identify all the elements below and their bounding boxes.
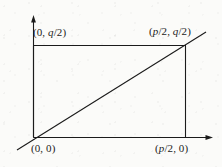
y-axis-arrowhead-icon	[31, 15, 36, 23]
label-top-left: (0, q/2)	[33, 27, 66, 38]
label-bottom-right: (p/2, 0)	[155, 143, 188, 154]
label-origin: (0, 0)	[31, 143, 55, 154]
x-axis-arrowhead-icon	[206, 135, 214, 140]
figure-canvas: (0, q/2) (p/2, q/2) (0, 0) (p/2, 0)	[0, 0, 222, 167]
diagonal-line	[17, 32, 206, 150]
label-top-right: (p/2, q/2)	[149, 26, 191, 37]
